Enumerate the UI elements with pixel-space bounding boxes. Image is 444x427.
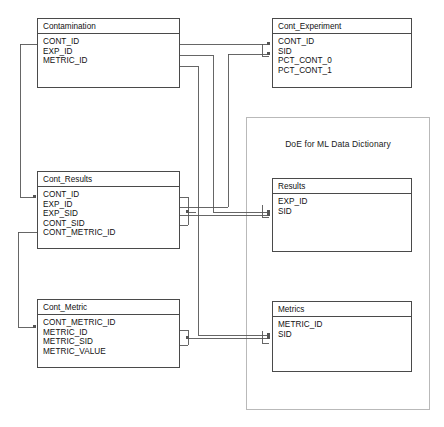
attribute-row: CONT_ID xyxy=(43,37,179,47)
attribute-row: SID xyxy=(278,330,411,340)
entity-attributes: CONT_ID EXP_ID METRIC_ID xyxy=(38,34,179,66)
attribute-row: CONT_METRIC_ID xyxy=(43,318,179,328)
attribute-row: EXP_SID xyxy=(43,209,179,219)
attribute-row: METRIC_ID xyxy=(43,328,179,338)
entity-attributes: CONT_ID SID PCT_CONT_0 PCT_CONT_1 xyxy=(273,34,411,75)
entity-title: Cont_Metric xyxy=(38,300,179,315)
attribute-row: CONT_METRIC_ID xyxy=(43,228,179,238)
attribute-row: METRIC_ID xyxy=(278,320,411,330)
attribute-row: SID xyxy=(278,47,411,57)
attribute-row: PCT_CONT_1 xyxy=(278,66,411,76)
attribute-row: CONT_SID xyxy=(43,219,179,229)
entity-attributes: CONT_METRIC_ID METRIC_ID METRIC_SID METR… xyxy=(38,315,179,356)
entity-title: Cont_Results xyxy=(38,172,179,187)
entity-results[interactable]: Results EXP_ID SID xyxy=(272,178,412,252)
attribute-row: EXP_ID xyxy=(278,197,411,207)
entity-title: Cont_Experiment xyxy=(273,19,411,34)
er-diagram-canvas: DoE for ML Data Dictionary xyxy=(0,0,444,427)
entity-attributes: CONT_ID EXP_ID EXP_SID CONT_SID CONT_MET… xyxy=(38,187,179,238)
attribute-row: EXP_ID xyxy=(43,47,179,57)
attribute-row: SID xyxy=(278,207,411,217)
entity-contamination[interactable]: Contamination CONT_ID EXP_ID METRIC_ID xyxy=(37,18,180,88)
entity-attributes: METRIC_ID SID xyxy=(273,317,411,339)
attribute-row: PCT_CONT_0 xyxy=(278,56,411,66)
entity-metrics[interactable]: Metrics METRIC_ID SID xyxy=(272,301,412,372)
entity-title: Metrics xyxy=(273,302,411,317)
attribute-row: METRIC_VALUE xyxy=(43,347,179,357)
entity-cont-experiment[interactable]: Cont_Experiment CONT_ID SID PCT_CONT_0 P… xyxy=(272,18,412,88)
attribute-row: METRIC_ID xyxy=(43,56,179,66)
attribute-row: CONT_ID xyxy=(278,37,411,47)
attribute-row: EXP_ID xyxy=(43,200,179,210)
group-container-label: DoE for ML Data Dictionary xyxy=(246,139,430,149)
attribute-row: METRIC_SID xyxy=(43,337,179,347)
entity-cont-metric[interactable]: Cont_Metric CONT_METRIC_ID METRIC_ID MET… xyxy=(37,299,180,368)
attribute-row: CONT_ID xyxy=(43,190,179,200)
entity-attributes: EXP_ID SID xyxy=(273,194,411,216)
entity-title: Contamination xyxy=(38,19,179,34)
entity-cont-results[interactable]: Cont_Results CONT_ID EXP_ID EXP_SID CONT… xyxy=(37,171,180,249)
entity-title: Results xyxy=(273,179,411,194)
